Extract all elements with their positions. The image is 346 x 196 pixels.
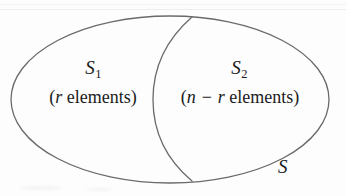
right-count-word: elements: [229, 87, 293, 107]
right-set-subscript: 2: [241, 67, 247, 81]
right-close-paren: ): [293, 87, 299, 107]
right-count-variable-second: r: [218, 87, 225, 107]
left-count-word: elements: [67, 87, 131, 107]
left-set-subscript: 1: [95, 67, 101, 81]
right-set-name: S: [231, 57, 241, 78]
left-close-paren: ): [131, 87, 137, 107]
left-set-count: (r elements): [49, 88, 137, 106]
set-partition-figure: S1 (r elements) S2 (n − r elements) S: [0, 0, 346, 196]
minus-sign: −: [200, 87, 213, 107]
left-set-label: S1: [85, 58, 101, 77]
right-set-count: (n − r elements): [181, 88, 300, 106]
universe-label: S: [278, 157, 288, 176]
right-count-variable-first: n: [187, 87, 196, 107]
left-set-name: S: [85, 57, 95, 78]
right-set-label: S2: [231, 58, 247, 77]
left-count-variable: r: [55, 87, 62, 107]
